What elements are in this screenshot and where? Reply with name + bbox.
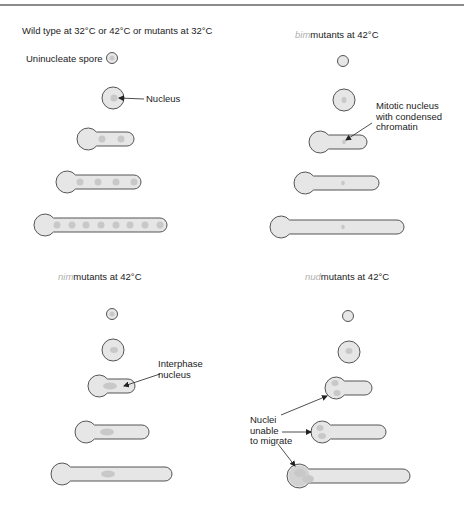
nucleus bbox=[342, 97, 347, 103]
annotation-label: Mitotic nucleuswith condensedchromatin bbox=[375, 100, 442, 132]
nucleus bbox=[131, 179, 138, 186]
pointer-arrow bbox=[281, 396, 327, 415]
nucleus bbox=[54, 222, 61, 229]
hypha-cell bbox=[56, 171, 141, 193]
hypha-cell bbox=[294, 172, 379, 194]
panel-title: nudmutants at 42°C bbox=[305, 271, 389, 282]
spore-cell bbox=[102, 339, 124, 361]
panel-nud: nudmutants at 42°CNucleiunableto migrate bbox=[250, 271, 410, 488]
nucleus bbox=[100, 429, 114, 436]
panel-title: nimmutants at 42°C bbox=[58, 271, 142, 282]
diagram-canvas: Wild type at 32°C or 42°C or mutants at … bbox=[0, 0, 464, 510]
nucleus bbox=[334, 390, 341, 396]
nucleus bbox=[113, 179, 120, 186]
spore-cell bbox=[343, 311, 354, 322]
spore-cell bbox=[333, 89, 355, 111]
annotation-label: Interphasenucleus bbox=[158, 358, 203, 380]
panel-bim: bimmutants at 42°CMitotic nucleuswith co… bbox=[270, 29, 442, 238]
annotation-label: Nucleiunableto migrate bbox=[250, 414, 292, 446]
nucleus bbox=[110, 56, 115, 61]
hypha-cell bbox=[34, 214, 167, 236]
mutant-gene-prefix: nim bbox=[58, 271, 73, 282]
nucleus bbox=[99, 136, 106, 143]
nucleus bbox=[332, 380, 339, 386]
panel-title-text: Wild type at 32°C or 42°C or mutants at … bbox=[22, 25, 213, 36]
hypha-cell bbox=[77, 128, 134, 150]
nucleus bbox=[113, 222, 120, 229]
panel-title-text: mutants at 42°C bbox=[321, 271, 389, 282]
nuclear-division-mutants-diagram: Wild type at 32°C or 42°C or mutants at … bbox=[0, 0, 464, 510]
nucleus bbox=[142, 222, 149, 229]
nucleus bbox=[346, 348, 353, 354]
nucleus bbox=[111, 95, 118, 102]
panel-nim: nimmutants at 42°CInterphasenucleus bbox=[51, 271, 203, 485]
nucleus bbox=[294, 469, 306, 477]
hypha-cell bbox=[270, 216, 404, 238]
nucleus bbox=[341, 181, 345, 185]
nucleus bbox=[95, 179, 102, 186]
nucleus bbox=[127, 222, 134, 229]
nucleus bbox=[83, 222, 90, 229]
hypha-cell bbox=[309, 131, 367, 153]
panel-title-text: mutants at 42°C bbox=[310, 29, 378, 40]
nucleus bbox=[103, 383, 117, 390]
spore-cell bbox=[107, 309, 118, 320]
spore-cell bbox=[107, 53, 118, 64]
hypha-cell bbox=[75, 421, 149, 443]
hypha-cell bbox=[51, 463, 172, 485]
spore-cell bbox=[338, 341, 360, 363]
nucleus bbox=[317, 425, 324, 431]
annotation-label: Uninucleate spore bbox=[26, 53, 103, 64]
nucleus bbox=[342, 140, 346, 144]
nucleus bbox=[101, 471, 115, 478]
mutant-gene-prefix: bim bbox=[295, 29, 310, 40]
mutant-gene-prefix: nud bbox=[305, 271, 322, 282]
nucleus bbox=[302, 475, 314, 483]
nucleus bbox=[110, 312, 115, 317]
panel-title: bimmutants at 42°C bbox=[295, 29, 379, 40]
hypha-cell bbox=[287, 464, 410, 488]
nucleus bbox=[118, 136, 125, 143]
nucleus bbox=[157, 222, 164, 229]
nucleus bbox=[98, 222, 105, 229]
panel-title: Wild type at 32°C or 42°C or mutants at … bbox=[22, 25, 213, 36]
nucleus bbox=[69, 222, 76, 229]
pointer-arrow bbox=[278, 444, 295, 466]
panel-title-text: mutants at 42°C bbox=[73, 271, 141, 282]
hypha-cell bbox=[325, 377, 372, 399]
nucleus bbox=[110, 347, 118, 353]
panel-wild-type: Wild type at 32°C or 42°C or mutants at … bbox=[22, 25, 213, 236]
hypha-cell bbox=[311, 421, 386, 443]
nucleus bbox=[318, 433, 326, 439]
annotation-label: Nucleus bbox=[146, 93, 181, 104]
nucleus bbox=[77, 179, 84, 186]
nucleus bbox=[341, 225, 345, 229]
hypha-cell bbox=[88, 375, 135, 397]
spore-cell bbox=[338, 56, 349, 67]
